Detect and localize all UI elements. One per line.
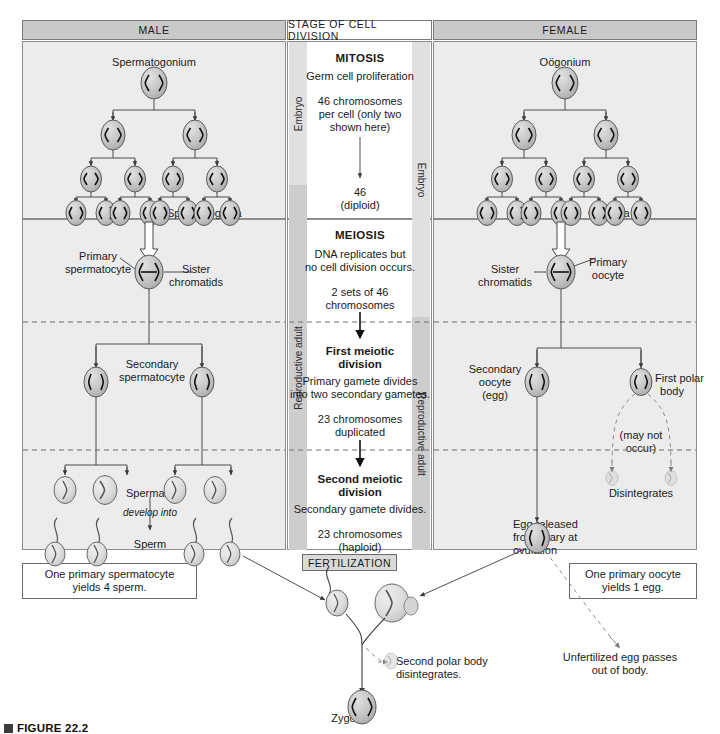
cell-male-gen2-d [207,166,228,192]
cell-male-gen2-c [163,166,184,192]
cell-female-gen1-a [512,120,536,150]
cell-female-gen2-b [536,166,557,192]
male-leader-primary [120,258,135,269]
cell-male-gen1-a [101,120,125,150]
cell-female-gen1-b [594,120,618,150]
cell-oogonium [552,67,578,99]
cell-zygote [348,690,376,724]
male-tree-edges-gen1 [113,99,195,119]
polar-split-left [612,394,635,470]
cell-egg-released [525,523,550,553]
second-polar-body [385,653,398,669]
cell-primary-oocyte [547,255,575,289]
disintegrating-polar-bodies [606,471,677,486]
fertilized-egg [375,584,418,622]
cell-secondary-oocyte [525,367,549,397]
cell-male-gen2-a [81,166,102,192]
cell-female-gen2-a [492,166,513,192]
spermatid-row [54,476,226,505]
sperm-2 [87,518,107,566]
merge-right [362,618,385,645]
sperm-row [45,518,240,566]
polar-split-right [648,394,671,470]
sperm-1 [45,518,65,566]
cell-secondary-spermatocyte-b [190,367,214,397]
cell-male-gen1-b [183,120,207,150]
female-leader-primary [574,258,596,266]
cell-female-gen2-c [574,166,595,192]
cell-primary-spermatocyte [135,255,163,289]
merge-left [346,614,362,645]
cell-secondary-spermatocyte-a [84,367,108,397]
fertilizing-sperm-tail [326,567,330,594]
cell-first-polar-body [630,369,652,396]
second-polar-path [366,648,386,662]
cell-male-gen2-b [125,166,146,192]
egg-path-to-fertilization [420,549,525,596]
cell-female-gen2-d [618,166,639,192]
sperm-4 [220,518,240,566]
unfertilized-egg-path [545,551,618,646]
cell-spermatogonium [141,67,167,99]
fertilizing-sperm-head [326,590,348,616]
sperm-3 [184,518,204,566]
sperm-path-to-egg [243,556,325,600]
